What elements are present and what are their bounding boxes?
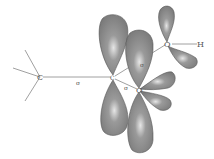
diagram-canvas: C C O O H σ σ σ xyxy=(0,0,214,159)
atom-h: H xyxy=(197,40,204,49)
atom-c2: C xyxy=(110,74,115,81)
sigma-label: σ xyxy=(140,61,144,68)
sigma-label: σ xyxy=(76,79,80,86)
atom-c1: C xyxy=(37,73,43,82)
sigma-label: σ xyxy=(124,84,128,91)
lobe-c2-up xyxy=(99,15,128,75)
lobe-o2-up xyxy=(159,6,175,42)
atom-o1: O xyxy=(136,86,143,95)
orbital-diagram: C C O O H σ σ σ xyxy=(0,0,214,159)
lobe-o1-up xyxy=(126,30,153,88)
atom-o2: O xyxy=(164,40,171,49)
lobe-o2-down xyxy=(168,46,197,68)
